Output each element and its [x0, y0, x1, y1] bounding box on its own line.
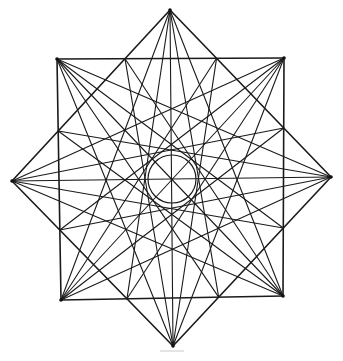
- diamond-edge: [12, 181, 173, 346]
- square-edge: [61, 296, 283, 300]
- vertex-bottom-left-corner: [59, 298, 63, 302]
- vertex-top-left-corner: [55, 57, 59, 61]
- square-edge: [57, 58, 284, 59]
- square-edge: [57, 59, 61, 300]
- octagram-diagram: [0, 0, 343, 361]
- faint-caption-mark: [160, 350, 184, 352]
- vertex-left: [10, 179, 14, 183]
- vertex-top: [168, 8, 172, 12]
- diamond-edge: [173, 177, 331, 346]
- vertex-top-right-corner: [282, 56, 286, 60]
- chord-line: [61, 10, 170, 300]
- vertex-bottom: [171, 344, 175, 348]
- auxiliary-line: [12, 181, 283, 228]
- chord-line: [12, 181, 283, 296]
- square-edge: [283, 58, 284, 296]
- vertex-bottom-right-corner: [281, 294, 285, 298]
- vertex-right: [329, 175, 333, 179]
- auxiliary-line: [58, 131, 283, 296]
